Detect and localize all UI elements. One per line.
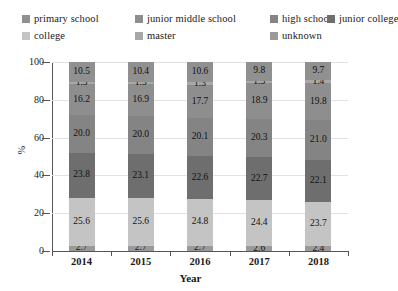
- legend-label: junior college: [339, 14, 398, 24]
- bar-segment: 20.1: [187, 118, 213, 156]
- bar-segment: 23.1: [128, 154, 154, 198]
- bar-2018[interactable]: 2.423.722.121.019.81.49.7: [305, 62, 331, 251]
- legend-row-2: collegemasterunknown: [22, 28, 374, 43]
- legend-item-high-school[interactable]: high school: [270, 14, 332, 24]
- bar-segment-value: 24.8: [192, 217, 209, 227]
- x-tick-mark: [348, 251, 349, 256]
- bar-segment: 20.3: [246, 119, 272, 157]
- bar-segment-value: 22.7: [251, 174, 268, 184]
- bar-segment-value: 16.2: [73, 95, 90, 105]
- legend-swatch-icon: [270, 15, 278, 23]
- x-tick-mark: [111, 251, 112, 256]
- legend-swatch-icon: [270, 32, 278, 40]
- bar-segment: 19.8: [305, 83, 331, 120]
- x-tick-mark: [52, 251, 53, 256]
- legend-item-junior-middle-school[interactable]: junior middle school: [135, 14, 236, 24]
- bar-segment: 10.4: [128, 62, 154, 82]
- bar-segment-value: 10.6: [192, 67, 209, 77]
- bar-segment: 22.7: [246, 157, 272, 200]
- bar-segment-value: 18.9: [251, 96, 268, 106]
- bar-segment-value: 20.3: [251, 133, 268, 143]
- bar-segment: 16.9: [128, 84, 154, 116]
- bar-2014[interactable]: 2.725.623.820.016.21.310.5: [69, 62, 95, 251]
- x-tick-label: 2017: [249, 256, 270, 267]
- legend-label: master: [147, 31, 176, 41]
- x-tick-mark: [230, 251, 231, 256]
- x-axis-title: Year: [0, 272, 381, 284]
- bar-segment: 25.6: [69, 198, 95, 246]
- bar-segment-value: 10.5: [73, 67, 90, 77]
- x-tick-label: 2015: [130, 256, 151, 267]
- bar-segment: 1.3: [246, 81, 272, 83]
- bar-segment: 24.4: [246, 200, 272, 246]
- bar-segment: 23.8: [69, 153, 95, 198]
- bar-segment-value: 24.4: [251, 218, 268, 228]
- bar-segment: 16.2: [69, 84, 95, 115]
- bar-segment-value: 22.6: [192, 173, 209, 183]
- x-tick-label: 2018: [308, 256, 329, 267]
- bar-segment-value: 17.7: [192, 97, 209, 107]
- y-tick-mark: [42, 100, 50, 101]
- bar-segment: 10.6: [187, 62, 213, 82]
- y-tick-mark: [42, 251, 50, 252]
- x-tick-mark: [289, 251, 290, 256]
- bar-segment-value: 20.0: [132, 130, 149, 140]
- legend-item-junior-college[interactable]: junior college: [327, 14, 398, 24]
- bar-segment: 9.7: [305, 62, 331, 80]
- bar-segment: 23.7: [305, 202, 331, 247]
- bar-segment-value: 23.1: [132, 171, 149, 181]
- bar-segment-value: 22.1: [310, 176, 327, 186]
- bar-segment: 20.0: [128, 116, 154, 154]
- bar-segment-value: 9.7: [312, 66, 324, 76]
- legend-item-master[interactable]: master: [135, 31, 176, 41]
- legend-label: high school: [282, 14, 332, 24]
- bar-segment: 2.7: [69, 246, 95, 251]
- bar-segment: 24.8: [187, 199, 213, 246]
- bar-2017[interactable]: 2.624.422.720.318.91.39.8: [246, 62, 272, 251]
- bar-segment-value: 25.6: [73, 217, 90, 227]
- bar-segment: 2.7: [187, 246, 213, 251]
- bar-segment: 1.3: [187, 82, 213, 84]
- bar-segment: 2.6: [246, 246, 272, 251]
- bar-segment: 22.6: [187, 156, 213, 199]
- legend-item-unknown[interactable]: unknown: [270, 31, 322, 41]
- bar-2015[interactable]: 2.725.623.120.016.91.310.4: [128, 62, 154, 251]
- bar-segment-value: 25.6: [132, 217, 149, 227]
- legend-label: junior middle school: [147, 14, 236, 24]
- bar-segment: 2.4: [305, 246, 331, 251]
- bar-segment: 2.7: [128, 246, 154, 251]
- legend-swatch-icon: [135, 32, 143, 40]
- bar-segment-value: 23.8: [73, 170, 90, 180]
- bar-segment: 1.3: [69, 82, 95, 84]
- x-tick-label: 2016: [190, 256, 211, 267]
- legend-label: unknown: [282, 31, 322, 41]
- legend-swatch-icon: [327, 15, 335, 23]
- bar-segment: 20.0: [69, 115, 95, 153]
- bar-segment: 10.5: [69, 62, 95, 82]
- y-tick-mark: [42, 62, 50, 63]
- y-tick-mark: [42, 175, 50, 176]
- bar-segment: 17.7: [187, 85, 213, 118]
- bar-segment-value: 16.9: [132, 95, 149, 105]
- bar-segment-value: 19.8: [310, 97, 327, 107]
- legend-swatch-icon: [135, 15, 143, 23]
- bar-segment: 1.4: [305, 80, 331, 83]
- bar-segment-value: 10.4: [132, 67, 149, 77]
- x-tick-mark: [170, 251, 171, 256]
- bar-segment: 1.3: [128, 82, 154, 84]
- bar-segment: 22.1: [305, 160, 331, 202]
- legend-row-1: primary schooljunior middle schoolhigh s…: [22, 11, 374, 26]
- bar-segment-value: 23.7: [310, 219, 327, 229]
- bar-segment-value: 20.1: [192, 132, 209, 142]
- bar-segment-value: 21.0: [310, 135, 327, 145]
- plot-area: 2.725.623.820.016.21.310.52.725.623.120.…: [52, 62, 348, 251]
- x-tick-label: 2014: [71, 256, 92, 267]
- y-tick-mark: [42, 138, 50, 139]
- bar-segment: 9.8: [246, 62, 272, 81]
- chart-legend: primary schooljunior middle schoolhigh s…: [22, 11, 374, 45]
- bar-segment-value: 20.0: [73, 129, 90, 139]
- bar-segment: 21.0: [305, 120, 331, 160]
- bar-2016[interactable]: 2.724.822.620.117.71.310.6: [187, 62, 213, 251]
- bar-segment: 18.9: [246, 83, 272, 119]
